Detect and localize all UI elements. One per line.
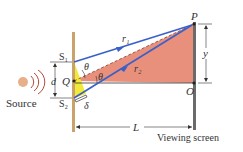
d-arrow-down (53, 93, 57, 97)
label-p: P (191, 11, 198, 22)
label-l: L (133, 122, 139, 133)
d-arrow-up (53, 63, 57, 67)
label-delta: δ (84, 101, 89, 111)
label-theta-lower: θ (98, 72, 103, 82)
label-q: Q (62, 76, 70, 87)
label-y: y (203, 48, 208, 59)
wave-1 (31, 76, 34, 88)
l-arrow-left (76, 125, 80, 129)
source-icon (18, 77, 28, 87)
l-arrow-right (188, 125, 192, 129)
label-r2: r₂ (134, 64, 141, 74)
y-arrow-down (204, 78, 208, 82)
label-s1: S₁ (59, 52, 68, 62)
label-d: d (51, 77, 56, 87)
wave-2 (34, 73, 39, 91)
point-q (72, 79, 75, 82)
double-slit-diagram (0, 0, 243, 152)
label-source: Source (6, 98, 37, 109)
label-o: O (186, 86, 194, 97)
label-r1: r₁ (122, 34, 129, 44)
label-s2: S₂ (59, 99, 68, 109)
ray-r1-arrow (116, 47, 124, 52)
label-theta-upper: θ (84, 62, 89, 72)
point-p (192, 22, 195, 25)
label-viewing-screen: Viewing screen (157, 133, 219, 143)
y-arrow-up (204, 25, 208, 29)
viewing-screen (193, 22, 196, 130)
